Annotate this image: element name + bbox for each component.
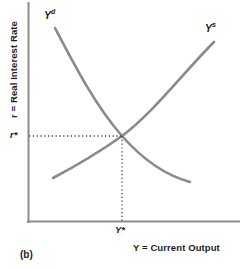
y-axis-tick-label-r-star: r* [10,129,17,140]
curve-label-ys: Ys [205,21,216,34]
x-axis-tick-label-y-star: Y* [115,224,125,235]
curve-label-yd-superscript: d [51,8,55,15]
y-axis-title: r = Real Interest Rate [8,5,19,135]
supply-curve-ys [53,42,214,178]
x-axis-title: Y = Current Output [133,242,220,253]
curve-label-yd: Yd [44,8,55,21]
figure-caption: (b) [20,249,33,260]
curve-label-ys-superscript: s [212,21,216,28]
curve-label-ys-text: Y [205,22,212,34]
economics-equilibrium-chart: r = Real Interest Rate Y = Current Outpu… [0,0,240,268]
curve-label-yd-text: Y [44,9,51,21]
